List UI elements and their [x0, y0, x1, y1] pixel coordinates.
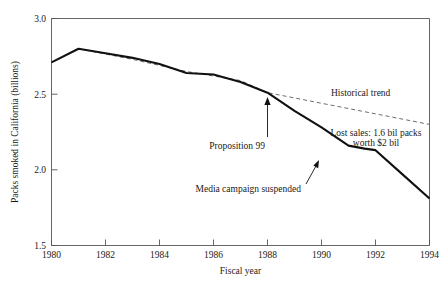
y-tick-labels: 3.0 2.5 2.0 1.5	[34, 14, 46, 251]
y-tick-label-2-0: 2.0	[34, 165, 46, 175]
media-campaign-arrowhead	[313, 160, 319, 168]
y-tick-marks	[52, 19, 58, 246]
x-tick-label-1984: 1984	[150, 250, 169, 260]
media-campaign-label: Media campaign suspended	[195, 184, 301, 194]
historical-trend-label: Historical trend	[331, 88, 391, 98]
x-tick-label-1982: 1982	[96, 250, 115, 260]
media-campaign-callout: Media campaign suspended	[195, 160, 319, 194]
actual-packs-line	[52, 49, 430, 199]
media-campaign-leader	[306, 166, 316, 184]
proposition-99-label: Proposition 99	[209, 141, 265, 151]
cigarette-consumption-line-chart: 3.0 2.5 2.0 1.5 1980 1982 1984 1986 1988…	[0, 0, 448, 286]
y-tick-label-3-0: 3.0	[34, 14, 46, 24]
y-axis-title: Packs smoked in California (billions)	[10, 61, 21, 203]
lost-sales-label-line1: Lost sales: 1.6 bil packs	[330, 128, 421, 138]
x-tick-marks	[52, 240, 430, 246]
x-tick-label-1992: 1992	[366, 250, 385, 260]
x-tick-label-1988: 1988	[258, 250, 277, 260]
x-tick-label-1986: 1986	[204, 250, 223, 260]
x-tick-labels: 1980 1982 1984 1986 1988 1990 1992 1994	[42, 250, 439, 260]
chart-page: 3.0 2.5 2.0 1.5 1980 1982 1984 1986 1988…	[0, 0, 448, 286]
lost-sales-label-line2: worth $2 bil	[353, 138, 400, 148]
x-tick-label-1990: 1990	[312, 250, 331, 260]
x-tick-label-1980: 1980	[42, 250, 61, 260]
y-tick-label-2-5: 2.5	[34, 90, 46, 100]
x-tick-label-1994: 1994	[420, 250, 439, 260]
x-axis-title: Fiscal year	[220, 266, 262, 276]
proposition-99-arrowhead	[264, 97, 270, 105]
proposition-99-callout: Proposition 99	[209, 97, 270, 151]
lost-sales-callout: Lost sales: 1.6 bil packs worth $2 bil	[330, 128, 421, 148]
